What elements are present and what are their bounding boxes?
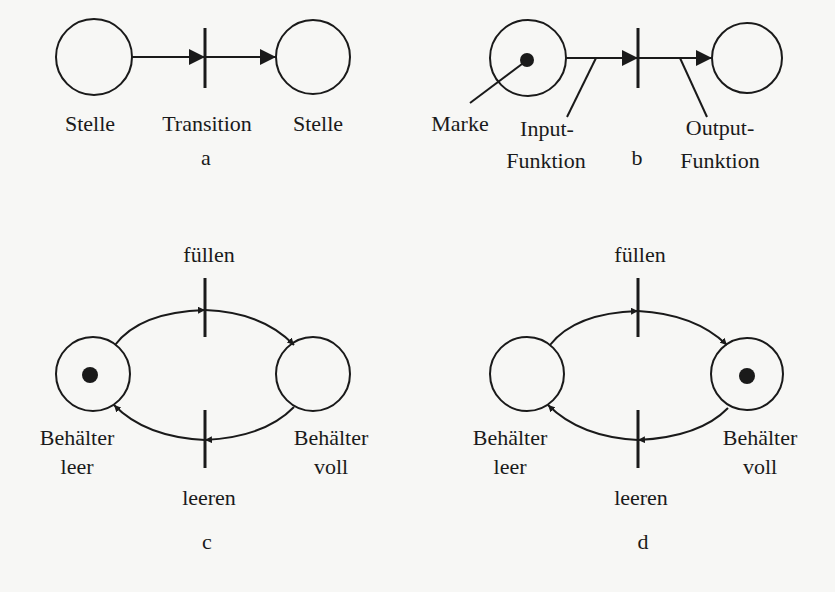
token-icon bbox=[82, 367, 98, 383]
arc-to-fuellen bbox=[115, 310, 205, 345]
label-right-2: voll bbox=[314, 454, 348, 479]
label-left-2: leer bbox=[61, 454, 95, 479]
label-output-1: Output- bbox=[686, 115, 754, 140]
caption-c: c bbox=[202, 529, 212, 554]
label-leeren: leeren bbox=[614, 485, 668, 510]
output-pointer bbox=[680, 58, 707, 117]
caption-d: d bbox=[638, 529, 649, 554]
label-right-1: Behälter bbox=[294, 425, 369, 450]
label-left-2: leer bbox=[494, 454, 528, 479]
arc-from-leeren bbox=[548, 405, 638, 440]
label-output-2: Funktion bbox=[680, 148, 759, 173]
label-input-1: Input- bbox=[520, 116, 574, 141]
panel-b bbox=[470, 20, 782, 117]
label-transition: Transition bbox=[162, 111, 252, 136]
label-fuellen: füllen bbox=[614, 242, 665, 267]
label-left-1: Behälter bbox=[473, 425, 548, 450]
label-fuellen: füllen bbox=[183, 242, 234, 267]
label-left-1: Behälter bbox=[40, 425, 115, 450]
place-right bbox=[712, 23, 782, 93]
arc-to-leeren bbox=[638, 408, 728, 440]
label-stelle-right: Stelle bbox=[293, 111, 343, 136]
arc-to-leeren bbox=[205, 407, 294, 440]
arc-from-fuellen bbox=[638, 311, 727, 345]
place-behaelter-voll bbox=[276, 337, 350, 411]
caption-a: a bbox=[201, 145, 211, 170]
label-stelle-left: Stelle bbox=[65, 111, 115, 136]
place-right bbox=[276, 20, 350, 94]
label-right-2: voll bbox=[743, 454, 777, 479]
panel-a bbox=[56, 19, 350, 95]
marke-pointer bbox=[470, 64, 522, 103]
place-behaelter-leer bbox=[490, 337, 564, 411]
arc-from-leeren bbox=[114, 405, 205, 440]
petri-net-figure: Stelle Transition Stelle a Marke Input- … bbox=[0, 0, 835, 592]
place-left bbox=[56, 19, 132, 95]
label-leeren: leeren bbox=[182, 485, 236, 510]
label-input-2: Funktion bbox=[506, 148, 585, 173]
caption-b: b bbox=[632, 145, 643, 170]
arc-from-fuellen bbox=[205, 310, 294, 345]
input-pointer bbox=[567, 58, 596, 117]
arc-to-fuellen bbox=[550, 311, 638, 345]
token-icon bbox=[739, 368, 755, 384]
label-right-1: Behälter bbox=[723, 425, 798, 450]
label-marke: Marke bbox=[431, 111, 488, 136]
